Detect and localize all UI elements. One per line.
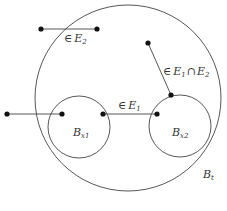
- set-diagram: ∈E2 ∈E1 ∈E1∩E2 Bx1 Bx2 Bt: [0, 0, 227, 211]
- point-icon: [168, 92, 173, 97]
- label-b-x1: Bx1: [72, 126, 90, 140]
- point-icon: [100, 111, 105, 116]
- label-e2: ∈E2: [64, 32, 87, 46]
- point-icon: [145, 40, 150, 45]
- point-icon: [94, 26, 99, 31]
- label-b-t: Bt: [202, 168, 214, 182]
- point-icon: [38, 26, 43, 31]
- point-icon: [59, 111, 64, 116]
- label-b-x2: Bx2: [171, 126, 189, 140]
- point-icon: [4, 111, 9, 116]
- label-e1: ∈E1: [118, 99, 141, 113]
- label-e1-cap-e2: ∈E1∩E2: [163, 65, 210, 79]
- point-icon: [154, 111, 159, 116]
